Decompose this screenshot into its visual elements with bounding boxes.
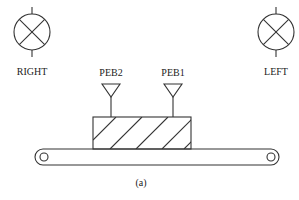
sensor-triangle-icon bbox=[102, 84, 120, 97]
conveyor-diagram: RIGHT LEFT PEB2 PEB1 bbox=[0, 0, 299, 200]
left-lamp-label: LEFT bbox=[264, 66, 288, 77]
hatched-object bbox=[93, 117, 216, 149]
sensor-peb2-label: PEB2 bbox=[99, 67, 122, 78]
roller-left-icon bbox=[40, 153, 48, 161]
sensor-triangle-icon bbox=[164, 84, 182, 97]
conveyor-belt bbox=[35, 149, 279, 165]
right-lamp: RIGHT bbox=[14, 7, 50, 77]
left-lamp: LEFT bbox=[258, 7, 294, 77]
sensor-peb2: PEB2 bbox=[99, 67, 122, 117]
sensor-peb1: PEB1 bbox=[161, 67, 184, 117]
belt-outline bbox=[35, 149, 279, 165]
hatch-pattern bbox=[93, 117, 216, 149]
sensor-peb1-label: PEB1 bbox=[161, 67, 184, 78]
right-lamp-label: RIGHT bbox=[17, 66, 48, 77]
object-box bbox=[93, 117, 191, 149]
roller-right-icon bbox=[267, 153, 275, 161]
figure-caption: (a) bbox=[135, 177, 146, 189]
